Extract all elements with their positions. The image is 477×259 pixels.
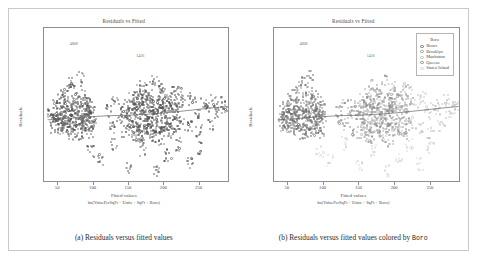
caption-b-text: (b) Residuals versus fitted values color… [279, 233, 412, 242]
y-axis-label-a: Residuals [18, 107, 23, 126]
legend-item-manhattan[interactable]: Manhattan [420, 55, 449, 59]
legend-item-label: Bronx [426, 44, 437, 48]
outlier-label: 1456 [367, 52, 375, 57]
x-tick-label: 50 [285, 185, 290, 190]
boro-legend: Boro BronxBrooklynManhattanQueensStaten … [416, 33, 454, 76]
caption-a: (a) Residuals versus fitted values [9, 226, 239, 250]
legend-title: Boro [420, 37, 449, 42]
plot-title-b: Residuals vs Fitted [239, 18, 469, 24]
panel-b: Residuals vs Fitted Residuals Boro Bronx… [239, 9, 469, 224]
legend-key-icon [420, 67, 423, 70]
panel-a: Residuals vs Fitted Residuals 3002001000… [9, 9, 239, 224]
x-axis-label-b: Fitted values [239, 193, 469, 198]
plot-area-a: 3002001000-100-20048081456 [43, 27, 229, 182]
caption-a-text: (a) Residuals versus fitted values [75, 233, 173, 242]
outlier-label: 4808 [300, 41, 308, 46]
plot-area-b: Boro BronxBrooklynManhattanQueensStaten … [273, 27, 461, 182]
x-tick-label: 50 [55, 185, 60, 190]
legend-item-label: Manhattan [426, 55, 445, 59]
x-tick-label: 200 [160, 185, 167, 190]
figure-container: Residuals vs Fitted Residuals 3002001000… [0, 0, 477, 259]
x-tick-label: 250 [195, 185, 202, 190]
x-axis-sublabel-b: lm(ValuePerSqFt ~ Units + SqFt + Boro) [239, 200, 469, 205]
captions-row: (a) Residuals versus fitted values (b) R… [9, 226, 468, 250]
legend-item-bronx[interactable]: Bronx [420, 44, 449, 48]
y-axis-label-b: Residuals [248, 107, 253, 126]
x-tick-label: 100 [89, 185, 96, 190]
x-axis-label-a: Fitted values [9, 193, 239, 198]
x-tick-label: 100 [319, 185, 326, 190]
caption-b: (b) Residuals versus fitted values color… [239, 226, 469, 250]
x-tick-label: 250 [426, 185, 433, 190]
x-tick-label: 200 [391, 185, 398, 190]
plot-title-a: Residuals vs Fitted [9, 18, 239, 24]
panels-row: Residuals vs Fitted Residuals 3002001000… [9, 9, 468, 224]
legend-key-icon [420, 50, 423, 53]
legend-items: BronxBrooklynManhattanQueensStaten Islan… [420, 44, 449, 70]
outlier-label: 1456 [136, 52, 144, 57]
loess-smooth-line [44, 28, 228, 181]
legend-item-staten-island[interactable]: Staten Island [420, 66, 449, 70]
x-axis-sublabel-a: lm(ValuePerSqFt ~ Units + SqFt + Boro) [9, 200, 239, 205]
outlier-label: 4808 [70, 41, 78, 46]
legend-key-icon [420, 56, 423, 59]
x-tick-label: 150 [124, 185, 131, 190]
legend-key-icon [420, 45, 423, 48]
x-tick-label: 150 [355, 185, 362, 190]
caption-b-code: Boro [412, 235, 428, 242]
legend-item-label: Staten Island [426, 66, 449, 70]
legend-key-icon [420, 61, 423, 64]
